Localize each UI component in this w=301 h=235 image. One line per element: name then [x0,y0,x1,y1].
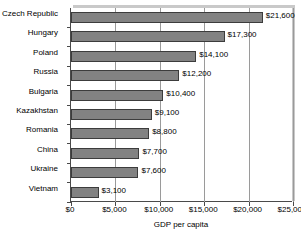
bar[interactable] [71,12,263,23]
bar[interactable] [71,90,163,101]
bar-value-label: $3,100 [102,185,126,197]
gridline [293,8,294,202]
bar-row: $12,200Russia [71,66,293,85]
bar-value-label: $8,800 [152,126,176,138]
bar-value-label: $12,200 [182,68,211,80]
bar-row: $8,800Romania [71,124,293,143]
bar[interactable] [71,70,179,81]
bar-row: $7,600Ukraine [71,163,293,182]
category-label: Vietnam [0,183,58,195]
category-label: Ukraine [0,163,58,175]
x-axis-tick-label: $0 [66,204,75,215]
x-axis-tick-label: $10,000 [144,204,173,215]
bar-row: $7,700China [71,144,293,163]
category-label: Kazakhstan [0,105,58,117]
category-label: Russia [0,66,58,78]
x-axis-tick-label: $5,000 [102,204,126,215]
bar[interactable] [71,187,99,198]
bar-value-label: $17,300 [228,29,257,41]
bar-row: $14,100Poland [71,47,293,66]
y-axis-tick [67,202,71,203]
bar-value-label: $14,100 [199,49,228,61]
bar-row: $17,300Hungary [71,27,293,46]
bar-row: $3,100Vietnam [71,183,293,202]
bar-value-label: $7,600 [141,165,165,177]
category-label: Romania [0,124,58,136]
bar-value-label: $7,700 [142,146,166,158]
bar[interactable] [71,128,149,139]
bar[interactable] [71,167,138,178]
x-axis-title: GDP per capita [70,219,292,230]
bar[interactable] [71,109,152,120]
category-label: Bulgaria [0,86,58,98]
category-label: Czech Republic [0,8,58,20]
bar-row: $10,400Bulgaria [71,86,293,105]
x-axis-tick-label: $25,000 [278,204,301,215]
bar-value-label: $9,100 [155,107,179,119]
bar-row: $9,100Kazakhstan [71,105,293,124]
x-axis-tick-label: $20,000 [233,204,262,215]
category-label: Hungary [0,27,58,39]
bar-value-label: $10,400 [166,88,195,100]
gdp-per-capita-bar-chart: $21,600Czech Republic$17,300Hungary$14,1… [0,0,301,235]
plot-area: $21,600Czech Republic$17,300Hungary$14,1… [70,8,292,202]
category-label: Poland [0,47,58,59]
bar[interactable] [71,51,196,62]
x-axis-tick-label: $15,000 [189,204,218,215]
bar[interactable] [71,148,139,159]
bar-row: $21,600Czech Republic [71,8,293,27]
category-label: China [0,144,58,156]
bar[interactable] [71,31,225,42]
bar-value-label: $21,600 [266,10,295,22]
